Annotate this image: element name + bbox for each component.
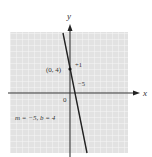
intercept-point [68, 67, 71, 70]
equation-label: m = −5, b = 4 [15, 114, 56, 122]
run-label: −5 [78, 80, 85, 87]
rise-label: +1 [75, 61, 82, 68]
x-axis-arrow-icon [133, 91, 140, 96]
graph-figure: x y (0, 4) +1 −5 0 m = −5, b = 4 [0, 0, 152, 157]
y-axis-arrow-icon [68, 24, 73, 31]
x-axis-label: x [142, 88, 147, 98]
point-label: (0, 4) [46, 66, 62, 74]
origin-label: 0 [63, 96, 67, 104]
y-axis-label: y [66, 11, 71, 21]
